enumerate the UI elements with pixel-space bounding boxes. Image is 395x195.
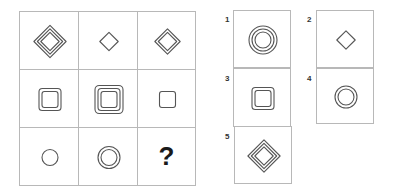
rounded-square-ring-1 xyxy=(160,92,176,108)
diamond-ring-1 xyxy=(248,140,280,172)
triple-diamond-icon xyxy=(20,12,78,69)
grid-cell-r3c1 xyxy=(19,127,79,186)
option-1[interactable] xyxy=(233,10,291,68)
single-diamond-icon xyxy=(79,12,137,69)
option-3[interactable] xyxy=(233,68,291,127)
triple-square-icon xyxy=(79,70,137,127)
single-circle-icon xyxy=(20,128,78,185)
single-diamond-icon xyxy=(317,11,373,67)
option-3-label: 3 xyxy=(225,74,229,83)
option-1-label: 1 xyxy=(225,15,229,24)
double-square-icon xyxy=(234,69,290,126)
diamond-ring-1 xyxy=(337,31,355,49)
option-2[interactable] xyxy=(316,10,374,68)
double-circle-icon xyxy=(79,128,137,185)
single-square-icon xyxy=(138,70,195,127)
grid-cell-r3c3-missing: ? xyxy=(137,127,196,186)
diamond-ring-1 xyxy=(34,25,66,57)
circle-ring-1 xyxy=(249,26,277,54)
grid-cell-r3c2 xyxy=(78,127,138,186)
option-5-label: 5 xyxy=(225,132,229,141)
triple-circle-icon xyxy=(234,11,290,67)
grid-cell-r2c2 xyxy=(78,69,138,128)
triple-diamond-icon xyxy=(235,127,291,183)
option-4[interactable] xyxy=(316,68,374,124)
rounded-square-ring-3 xyxy=(101,92,117,108)
rounded-square-ring-2 xyxy=(255,91,271,107)
grid-cell-r1c2 xyxy=(78,11,138,70)
circle-ring-2 xyxy=(101,150,117,166)
rounded-square-ring-2 xyxy=(42,92,58,108)
option-2-label: 2 xyxy=(307,15,311,24)
grid-cell-r2c3 xyxy=(137,69,196,128)
option-4-label: 4 xyxy=(307,74,311,83)
double-square-icon xyxy=(20,70,78,127)
grid-cell-r2c1 xyxy=(19,69,79,128)
option-5[interactable] xyxy=(234,126,292,184)
grid-cell-r1c1 xyxy=(19,11,79,70)
diamond-ring-1 xyxy=(100,32,118,50)
double-circle-icon xyxy=(317,69,373,123)
double-diamond-icon xyxy=(138,12,195,69)
circle-ring-1 xyxy=(42,150,58,166)
circle-ring-3 xyxy=(255,32,271,48)
question-mark: ? xyxy=(138,142,195,170)
grid-cell-r1c3 xyxy=(137,11,196,70)
circle-ring-2 xyxy=(338,89,354,105)
